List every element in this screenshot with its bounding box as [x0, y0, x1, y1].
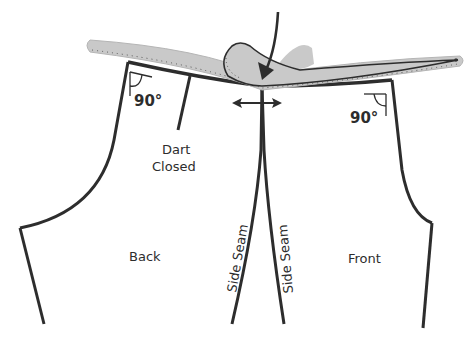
back-inseam — [20, 228, 44, 324]
back-label: Back — [129, 249, 161, 264]
front-label: Front — [348, 251, 381, 266]
right-angle-marker-right: 90° — [350, 94, 386, 127]
dart-label-line1: Dart — [162, 142, 190, 157]
angle-label-left: 90° — [134, 92, 162, 110]
dart-label-line2: Closed — [152, 159, 196, 174]
double-headed-arrow — [232, 98, 282, 108]
angle-label-right: 90° — [350, 109, 378, 127]
pattern-diagram: 90° 90° Dart Closed Back Front Side Seam… — [0, 0, 467, 338]
front-center-seam-and-crotch-curve — [392, 80, 432, 223]
front-inseam — [423, 223, 432, 328]
back-center-seam-and-crotch-curve — [20, 62, 128, 228]
dart-line — [178, 76, 190, 130]
right-angle-marker-left: 90° — [130, 72, 162, 110]
